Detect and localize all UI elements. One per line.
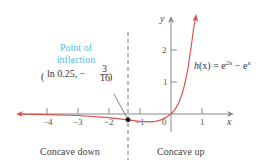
x-tick-label: −3 <box>73 117 83 127</box>
x-tick-label: −4 <box>43 117 53 127</box>
inflection-title-line2: inflection <box>57 54 95 65</box>
coord-text: ln 0.25, − <box>47 68 86 79</box>
left-paren: ( <box>41 71 45 83</box>
concave-down-label: Concave down <box>40 146 100 157</box>
y-tick-label: 1 <box>163 77 168 87</box>
x-tick-label: 1 <box>200 117 205 127</box>
inflection-coordinates: ( ln 0.25, − 3 16 ) <box>41 63 112 83</box>
y-tick-label: 2 <box>162 45 167 55</box>
function-label: h(x) = e2x − ex <box>194 59 251 72</box>
chart-canvas: −4 −3 −2 −1 0 1 x 2 1 y Point of inflect… <box>0 0 271 167</box>
x-axis-label: x <box>226 116 232 127</box>
inflection-point-marker <box>126 117 131 122</box>
right-paren: ) <box>109 71 112 83</box>
y-axis-label: y <box>159 13 165 24</box>
concave-up-label: Concave up <box>157 146 205 157</box>
inflection-title-line1: Point of <box>60 42 93 53</box>
